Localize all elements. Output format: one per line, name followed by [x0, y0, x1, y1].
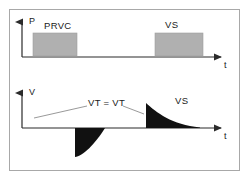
vs-pressure-pulse	[155, 33, 203, 56]
flow-y-axis-label: V	[29, 87, 35, 97]
tidal-volume-annotation: VT = VT	[88, 97, 125, 108]
vs-expiratory-flow-wave	[146, 103, 200, 128]
prvc-pressure-pulse	[33, 33, 77, 56]
pressure-panel: P t PRVC VS	[22, 16, 227, 70]
annotation-leader-right	[123, 106, 144, 114]
flow-x-axis-label: t	[224, 131, 227, 141]
vs-flow-label: VS	[175, 95, 188, 106]
prvc-expiratory-flow-wave	[75, 128, 105, 157]
pressure-x-axis-label: t	[224, 60, 227, 70]
flow-panel: V t VT = VT VS	[22, 87, 227, 157]
prvc-pulse-label: PRVC	[44, 20, 71, 31]
figure-root: P t PRVC VS V t VT = VT VS	[0, 0, 252, 181]
pressure-y-axis-label: P	[29, 16, 35, 26]
annotation-leader-left	[34, 106, 87, 118]
vs-pulse-label: VS	[165, 19, 178, 30]
ventilation-waveform-diagram: P t PRVC VS V t VT = VT VS	[0, 0, 252, 181]
